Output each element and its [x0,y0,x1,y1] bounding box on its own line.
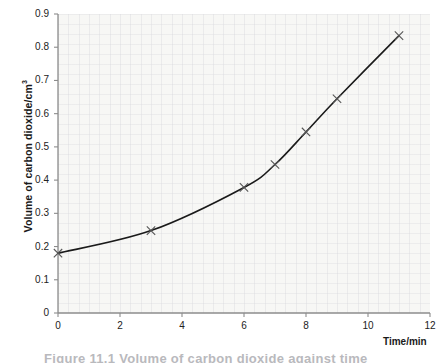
y-tick-label: 0.5 [19,141,49,152]
x-tick-label: 4 [167,320,197,331]
x-axis-title-text: Time/min [383,336,427,347]
chart-svg [0,0,441,363]
x-tick-label: 6 [229,320,259,331]
data-point-marker [302,128,310,136]
data-point-marker [333,95,341,103]
data-point-marker [147,226,155,234]
data-point-markers [54,31,403,257]
data-series [58,36,399,254]
y-tick-label: 0.8 [19,41,49,52]
x-tick-label: 10 [353,320,383,331]
y-tick-label: 0.1 [19,274,49,285]
x-tick-label: 12 [415,320,441,331]
data-point-marker [271,160,279,168]
data-point-marker [395,31,403,39]
y-tick-label: 0.4 [19,174,49,185]
y-tick-label: 0.2 [19,241,49,252]
tick-marks [54,14,430,317]
figure-chart: Volume of carbon dioxide/cm3 00.10.20.30… [0,0,441,363]
y-tick-label: 0.6 [19,108,49,119]
x-tick-label: 8 [291,320,321,331]
x-tick-label: 0 [43,320,73,331]
y-tick-label: 0.7 [19,74,49,85]
x-tick-label: 2 [105,320,135,331]
y-tick-label: 0.9 [19,8,49,19]
figure-caption-text: Figure 11.1 Volume of carbon dioxide aga… [44,352,368,363]
x-axis-title: Time/min [383,336,427,347]
y-tick-label: 0.3 [19,207,49,218]
figure-caption-clipped: Figure 11.1 Volume of carbon dioxide aga… [0,352,441,363]
axes [58,14,430,313]
data-point-marker [240,183,248,191]
y-tick-label: 0 [19,307,49,318]
